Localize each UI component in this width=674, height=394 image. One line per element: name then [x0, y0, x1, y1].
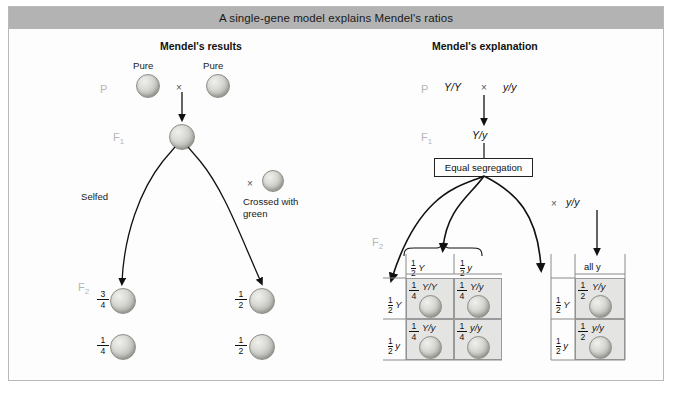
pea-f2-selfed-recessive — [110, 334, 136, 360]
pea-testcross-0 — [589, 295, 612, 318]
generation-label-f1-left: F1 — [113, 131, 124, 146]
selfed-col-header-1: 12 y — [460, 259, 472, 278]
cross-symbol-testcross-left: × — [247, 178, 253, 189]
pea-selfed-0-0 — [419, 295, 442, 318]
generation-label-p-left: P — [100, 83, 107, 95]
f1-genotype: Y/y — [472, 129, 487, 141]
cross-symbol-testcross-right: × — [551, 198, 557, 209]
selfed-cell-genotype-0-0: Y/Y — [422, 281, 437, 292]
equal-segregation-box: Equal segregation — [434, 158, 533, 177]
figure-title: A single-gene model explains Mendel's ra… — [219, 12, 453, 24]
pea-f2-selfed-dominant — [110, 288, 136, 314]
p-genotype-right: y/y — [503, 81, 516, 93]
pea-selfed-0-1 — [467, 295, 490, 318]
f2-fraction-testcross-dominant: 12 — [235, 290, 247, 309]
pea-parent-yellow — [136, 74, 160, 98]
selfed-cell-genotype-1-0: Y/y — [422, 322, 436, 333]
pea-f2-testcross-dominant — [249, 288, 275, 314]
figure-canvas: A single-gene model explains Mendel's ra… — [0, 0, 674, 394]
crossed-with-green-line1: Crossed with — [243, 196, 298, 207]
crossed-with-green-line2: green — [243, 208, 268, 219]
selfed-cell-genotype-1-1: y/y — [470, 322, 482, 333]
selfed-cell-fraction-0-0: 14 — [409, 281, 419, 300]
f2-fraction-selfed-recessive: 14 — [97, 336, 109, 355]
pea-testcross-1 — [589, 336, 612, 359]
pea-parent-green — [206, 74, 230, 98]
selfed-row-header-1: 12 y — [388, 337, 400, 356]
f2-fraction-selfed-dominant: 34 — [97, 290, 109, 309]
testcross-cell-genotype-1: y/y — [592, 322, 604, 333]
equal-segregation-label: Equal segregation — [445, 162, 522, 173]
testcross-cell-fraction-1: 12 — [578, 322, 588, 341]
figure-title-bar: A single-gene model explains Mendel's ra… — [9, 7, 663, 29]
selfed-col-header-0: 12 Y — [411, 259, 425, 278]
testcross-parent-genotype: y/y — [566, 196, 579, 208]
right-panel-title: Mendel's explanation — [432, 40, 538, 52]
generation-label-f1-right: F1 — [421, 131, 432, 146]
selfed-cell-fraction-0-1: 14 — [457, 281, 467, 300]
left-panel-title: Mendel's results — [160, 40, 242, 52]
testcross-row-header-1: 12 y — [556, 337, 568, 356]
pea-f2-testcross-recessive — [249, 334, 275, 360]
selfed-row-header-0: 12 Y — [388, 296, 402, 315]
generation-label-f2-left: F2 — [78, 281, 89, 296]
cross-symbol-right-p: × — [481, 82, 487, 93]
pea-f1-left — [169, 124, 195, 150]
pea-selfed-1-0 — [419, 336, 442, 359]
pea-selfed-1-1 — [467, 336, 490, 359]
generation-label-f2-right: F2 — [372, 236, 383, 251]
testcross-col-header: all y — [584, 261, 601, 272]
testcross-cell-fraction-0: 12 — [578, 281, 588, 300]
selfed-cell-genotype-0-1: Y/y — [470, 281, 484, 292]
selfed-cell-fraction-1-1: 14 — [457, 322, 467, 341]
pure-label-right: Pure — [203, 60, 223, 71]
generation-label-p-right: P — [421, 83, 428, 95]
testcross-row-header-0: 12 Y — [556, 296, 570, 315]
selfed-cell-fraction-1-0: 14 — [409, 322, 419, 341]
testcross-cell-genotype-0: Y/y — [592, 281, 606, 292]
pea-green-testcross — [262, 170, 284, 192]
cross-symbol-left-p: × — [176, 82, 182, 93]
f2-fraction-testcross-recessive: 12 — [235, 336, 247, 355]
p-genotype-left: Y/Y — [444, 81, 461, 93]
pure-label-left: Pure — [133, 60, 153, 71]
selfed-label: Selfed — [81, 191, 108, 202]
